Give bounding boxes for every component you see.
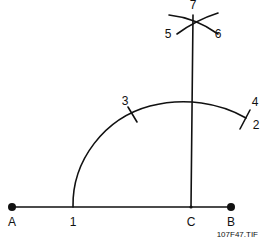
arc-6 — [177, 13, 218, 34]
label-2: 2 — [253, 118, 260, 132]
label-4: 4 — [252, 95, 259, 109]
label-1: 1 — [70, 215, 77, 229]
label-a: A — [8, 215, 16, 229]
label-b: B — [227, 215, 235, 229]
endpoint-b — [227, 203, 235, 211]
label-7: 7 — [190, 0, 197, 12]
tick-2-4 — [240, 110, 250, 129]
perpendicular-line — [191, 15, 193, 207]
label-6: 6 — [215, 27, 222, 41]
label-5: 5 — [165, 27, 172, 41]
construction-diagram: 7 5 6 3 4 2 A 1 C B 107F47.TIF — [0, 0, 260, 239]
label-c: C — [187, 215, 196, 229]
figure-caption: 107F47.TIF — [217, 230, 258, 239]
endpoint-a — [8, 203, 16, 211]
arc-1-to-2 — [73, 102, 246, 207]
label-3: 3 — [122, 94, 129, 108]
